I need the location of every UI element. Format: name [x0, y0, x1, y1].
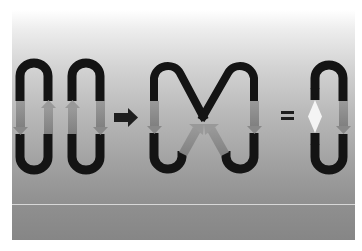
arrow-down-icon — [247, 101, 262, 134]
arrow-up-left-icon — [204, 124, 229, 156]
loop-1 — [13, 63, 56, 170]
arrow-down-icon — [13, 101, 28, 135]
arrow-down-icon — [147, 101, 162, 134]
loop-2 — [65, 63, 108, 170]
arrow-down-icon — [93, 101, 108, 135]
diamond-icon — [308, 100, 322, 133]
arrow-down-icon — [336, 101, 351, 134]
arrow-up-icon — [65, 100, 80, 134]
arrow-up-right-icon — [179, 124, 204, 156]
arrow-up-icon — [41, 100, 56, 134]
loop-fusion-diagram — [0, 0, 362, 251]
equals-icon — [281, 111, 294, 120]
pinched-loop — [308, 65, 351, 170]
transform-arrow-icon — [114, 108, 138, 127]
crossed-loop — [147, 66, 262, 169]
